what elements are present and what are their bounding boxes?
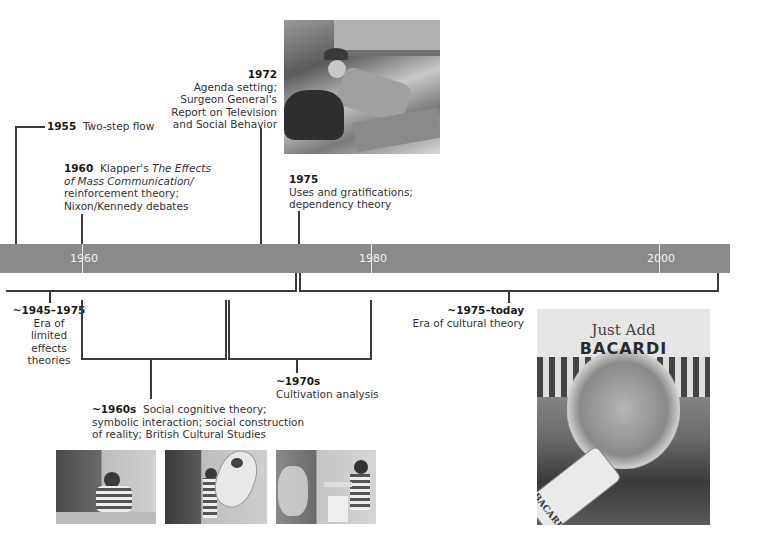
- connector-1955-vertical: [15, 127, 17, 244]
- event-1972-line3: Report on Television: [160, 106, 277, 119]
- connector-1955-horizontal: [15, 126, 45, 128]
- event-1960-year: 1960: [64, 162, 93, 174]
- era-1960s-line2: symbolic interaction; social constructio…: [92, 416, 304, 429]
- connector-1972: [260, 128, 262, 244]
- era-1960s-range: ~1960s: [92, 403, 136, 415]
- event-1955: 1955 Two-step flow: [47, 120, 154, 133]
- event-1975-line2: dependency theory: [289, 198, 413, 211]
- event-1960-line3: reinforcement theory;: [64, 187, 211, 200]
- era-cultural-text: Era of cultural theory: [400, 317, 524, 330]
- western-scene-photo: [284, 20, 440, 154]
- bracket-1960s-right: [225, 300, 227, 360]
- era-1960s: ~1960s Social cognitive theory; symbolic…: [92, 403, 304, 441]
- bracket-cultural-end: [717, 273, 719, 292]
- tick-label-1960: 1960: [70, 252, 98, 265]
- bracket-1970s-bottom: [228, 358, 372, 360]
- bacardi-headline-script: Just Add: [537, 321, 710, 339]
- bracket-1970s-right: [370, 300, 372, 360]
- bracket-cultural-start: [299, 273, 301, 292]
- event-1955-text: Two-step flow: [83, 120, 154, 132]
- event-1960-book-title-1: The Effects: [152, 162, 211, 174]
- event-1960-text-pre: Klapper's: [100, 162, 152, 174]
- event-1960-book-title-2: of Mass Communication/: [64, 175, 211, 188]
- bracket-cultural-stem: [508, 291, 510, 303]
- era-1970s: ~1970s Cultivation analysis: [276, 375, 379, 400]
- event-1972-line4: and Social Behavior: [160, 118, 277, 131]
- bobo-doll-photo-3: [276, 450, 376, 524]
- event-1972-year: 1972: [160, 68, 277, 81]
- era-1970s-range: ~1970s: [276, 375, 379, 388]
- event-1972: 1972 Agenda setting; Surgeon General's R…: [160, 68, 277, 131]
- connector-1975: [298, 211, 300, 244]
- event-1975: 1975 Uses and gratifications; dependency…: [289, 173, 413, 211]
- event-1972-line1: Agenda setting;: [160, 81, 277, 94]
- era-1960s-line3: of reality; British Cultural Studies: [92, 428, 304, 441]
- event-1960: 1960 Klapper's The Effects of Mass Commu…: [64, 162, 211, 212]
- event-1972-line2: Surgeon General's: [160, 93, 277, 106]
- era-1970s-text: Cultivation analysis: [276, 388, 379, 401]
- tick-label-1980: 1980: [359, 252, 387, 265]
- bobo-doll-photo-1: [56, 450, 156, 524]
- bracket-1960s-left: [81, 300, 83, 360]
- bobo-doll-photo-2: [165, 450, 267, 524]
- bacardi-advertisement: Just Add BACARDI BACARDI: [537, 309, 710, 525]
- bacardi-headline-brand: BACARDI: [537, 339, 710, 358]
- connector-1960: [81, 214, 83, 244]
- bracket-limited-effects-stem: [49, 291, 51, 303]
- event-1960-line4: Nixon/Kennedy debates: [64, 200, 211, 213]
- era-1960s-line1: Social cognitive theory;: [143, 403, 267, 415]
- bracket-1970s-stem: [296, 359, 298, 373]
- bracket-1970s-left: [228, 300, 230, 360]
- era-cultural-range: ~1975–today: [400, 304, 524, 317]
- event-1955-year: 1955: [47, 120, 76, 132]
- timeline-bar: 1960 1980 2000: [0, 244, 730, 273]
- bracket-1960s-bottom: [81, 358, 227, 360]
- era-cultural-theory: ~1975–today Era of cultural theory: [400, 304, 524, 329]
- event-1975-line1: Uses and gratifications;: [289, 186, 413, 199]
- bracket-limited-effects-end: [295, 273, 297, 292]
- event-1975-year: 1975: [289, 173, 413, 186]
- bracket-1960s-stem: [150, 359, 152, 399]
- tick-label-2000: 2000: [647, 252, 675, 265]
